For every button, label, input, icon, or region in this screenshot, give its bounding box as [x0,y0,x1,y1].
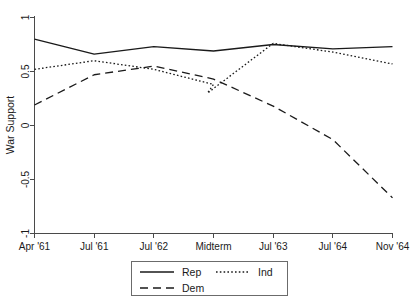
y-tick-label: 1 [20,14,31,20]
y-tick-label: 0.5 [20,64,31,78]
series-line-rep [35,39,393,54]
series-group [35,39,393,198]
x-tick-label: Jul '62 [140,241,169,252]
x-tick-label: Apr '61 [19,241,51,252]
chart-container: 1 0.5 0 -0.5 -1 War Support Apr '61 Jul … [0,0,415,303]
y-tick-label: 0 [20,122,31,128]
y-tick-label: -0.5 [20,170,31,188]
legend-label-ind: Ind [258,266,273,278]
chart-legend: Rep Ind Dem [132,262,288,296]
x-tick-label: Midterm [195,241,231,252]
war-support-line-chart: 1 0.5 0 -0.5 -1 War Support Apr '61 Jul … [0,0,415,303]
legend-label-dem: Dem [182,282,204,294]
x-tick-label: Nov '64 [376,241,410,252]
y-axis-title: War Support [4,96,16,155]
x-tick-label: Jul '64 [319,241,348,252]
series-line-dem [35,66,393,198]
x-tick-group: Apr '61 Jul '61 Jul '62 Midterm Jul '63 … [19,234,410,253]
y-tick-label: -1 [20,229,31,238]
x-tick-label: Jul '63 [259,241,288,252]
x-tick-label: Jul '61 [80,241,109,252]
y-tick-group: 1 0.5 0 -0.5 -1 [20,14,35,238]
legend-label-rep: Rep [182,266,201,278]
